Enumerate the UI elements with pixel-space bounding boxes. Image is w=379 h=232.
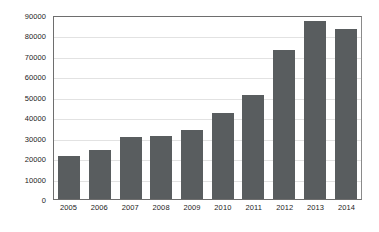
plot-area (53, 16, 362, 200)
bar (242, 95, 264, 199)
y-axis-tick-labels: 0100002000030000400005000060000700008000… (0, 0, 50, 232)
y-tick-label: 60000 (25, 73, 46, 82)
bar (150, 136, 172, 199)
x-axis-tick-labels: 2005200620072008200920102011201220132014 (53, 203, 362, 219)
bar (58, 156, 80, 199)
bar (181, 130, 203, 200)
x-tick-label: 2010 (212, 203, 234, 212)
bar-chart-figure: 0100002000030000400005000060000700008000… (0, 0, 379, 232)
x-tick-label: 2013 (305, 203, 327, 212)
y-tick-label: 70000 (25, 52, 46, 61)
y-tick-label: 10000 (25, 175, 46, 184)
bar (335, 29, 357, 199)
bar (120, 137, 142, 199)
x-tick-label: 2007 (119, 203, 141, 212)
x-tick-label: 2009 (181, 203, 203, 212)
bar (304, 21, 326, 199)
bar (212, 113, 234, 199)
x-tick-label: 2014 (335, 203, 357, 212)
y-tick-label: 0 (42, 196, 46, 205)
y-tick-label: 30000 (25, 134, 46, 143)
y-tick-label: 90000 (25, 12, 46, 21)
y-tick-label: 20000 (25, 155, 46, 164)
y-tick-label: 50000 (25, 93, 46, 102)
y-tick-label: 40000 (25, 114, 46, 123)
x-tick-label: 2005 (57, 203, 79, 212)
x-tick-label: 2012 (274, 203, 296, 212)
x-tick-label: 2006 (88, 203, 110, 212)
x-tick-label: 2008 (150, 203, 172, 212)
bar (273, 50, 295, 199)
bar (89, 150, 111, 199)
bar-series (54, 17, 361, 199)
x-tick-label: 2011 (243, 203, 265, 212)
y-tick-label: 80000 (25, 32, 46, 41)
